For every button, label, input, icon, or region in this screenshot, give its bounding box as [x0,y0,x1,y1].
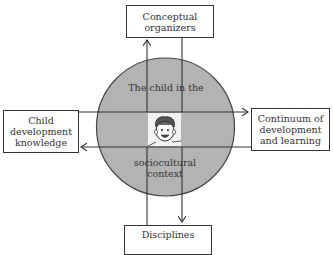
box-left-line3: knowledge [15,137,67,148]
box-continuum-development-learning: Continuum of development and learning [251,108,330,151]
box-bottom-line1: Disciplines [142,229,195,240]
center-label-bottom-line1: sociocultural [115,157,215,168]
box-right-line3: and learning [260,135,321,146]
child-face-image [148,113,181,146]
box-right-line1: Continuum of [258,113,324,124]
center-label-bottom: sociocultural context [115,157,215,179]
box-conceptual-organizers: Conceptual organizers [126,5,214,38]
box-child-development-knowledge: Child development knowledge [3,110,79,153]
box-right-line2: development [259,124,321,135]
box-left-line2: development [10,126,72,137]
child-face-icon [148,113,181,146]
box-top-line1: Conceptual [143,11,198,22]
box-left-line1: Child [28,115,54,126]
center-label-top: The child in the [120,82,212,93]
center-label-bottom-line2: context [115,168,215,179]
box-top-line2: organizers [144,22,195,33]
box-disciplines: Disciplines [124,225,212,255]
